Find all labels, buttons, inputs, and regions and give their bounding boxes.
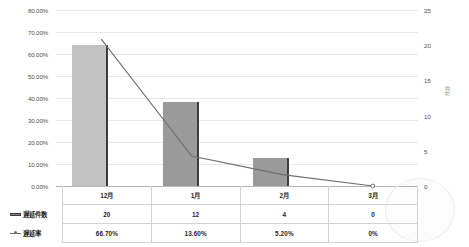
table-row-delay-rate: 遅延率 66.70% 13.60% 5.20% 0%: [8, 224, 418, 243]
right-axis-title: 件数: [443, 86, 450, 96]
legend-label-delay-rate: 遅延率: [23, 229, 41, 238]
bar-swatch-icon: [10, 213, 21, 216]
left-axis-tick: 10.00%: [28, 161, 48, 168]
left-axis-tick: 30.00%: [28, 117, 48, 124]
right-axis-tick: 20: [424, 42, 431, 49]
category-header-january: 1月: [151, 186, 240, 205]
cell-count-december: 20: [63, 205, 152, 224]
cell-count-march: 0: [329, 205, 418, 224]
combo-chart: 0.00% 10.00% 20.00% 30.00% 40.00% 50.00%…: [0, 0, 469, 247]
line-swatch-icon: [10, 231, 21, 236]
legend-label-delay-count: 遅延件数: [23, 210, 47, 219]
left-axis-tick: 70.00%: [28, 29, 48, 36]
category-header-february: 2月: [240, 186, 329, 205]
right-value-axis: 0 5 10 15 20 25: [420, 10, 442, 186]
cell-rate-december: 66.70%: [63, 224, 152, 243]
right-axis-tick: 25: [424, 7, 431, 14]
left-axis-tick: 60.00%: [28, 51, 48, 58]
data-table: 12月 1月 2月 3月 遅延件数 20 12 4 0: [8, 186, 418, 243]
cell-rate-march: 0%: [329, 224, 418, 243]
right-axis-tick: 0: [424, 183, 427, 190]
left-axis-tick: 40.00%: [28, 95, 48, 102]
table-row-delay-count: 遅延件数 20 12 4 0: [8, 205, 418, 224]
category-header-march: 3月: [329, 186, 418, 205]
cell-rate-january: 13.60%: [151, 224, 240, 243]
right-axis-tick: 10: [424, 112, 431, 119]
right-axis-tick: 5: [424, 147, 427, 154]
line-series: [56, 10, 418, 186]
plot-area: [56, 10, 418, 186]
legend-key-delay-count: 遅延件数: [8, 205, 63, 224]
left-value-axis: 0.00% 10.00% 20.00% 30.00% 40.00% 50.00%…: [0, 10, 52, 186]
cell-count-january: 12: [151, 205, 240, 224]
legend-key-delay-rate: 遅延率: [8, 224, 63, 243]
table-corner-cell: [8, 186, 63, 205]
category-header-december: 12月: [63, 186, 152, 205]
left-axis-tick: 50.00%: [28, 73, 48, 80]
left-axis-tick: 80.00%: [28, 7, 48, 14]
cell-rate-february: 5.20%: [240, 224, 329, 243]
cell-count-february: 4: [240, 205, 329, 224]
right-axis-tick: 15: [424, 77, 431, 84]
table-row-categories: 12月 1月 2月 3月: [8, 186, 418, 205]
left-axis-tick: 20.00%: [28, 139, 48, 146]
delay-rate-line: [101, 39, 373, 186]
